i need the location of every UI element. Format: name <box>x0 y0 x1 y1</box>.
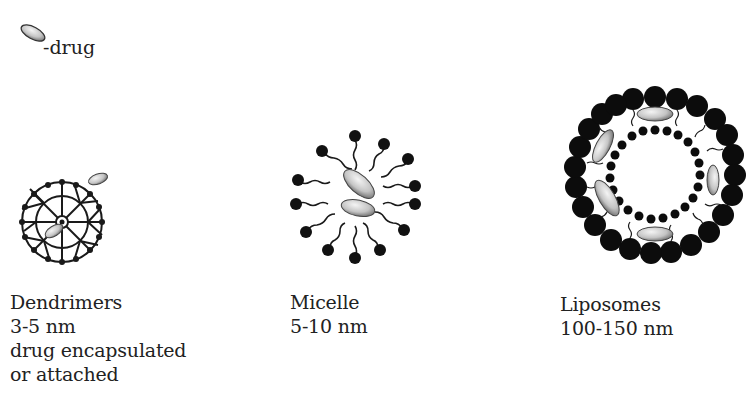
micelle-name: Micelle <box>290 290 368 314</box>
liposome-label: Liposomes 100-150 nm <box>560 292 673 340</box>
dendrimer-note-2: or attached <box>10 362 186 386</box>
legend-label: -drug <box>43 36 95 58</box>
dendrimer-size: 3-5 nm <box>10 314 186 338</box>
dendrimer-name: Dendrimers <box>10 290 186 314</box>
micelle-diagram <box>280 120 430 270</box>
legend: -drug <box>18 22 138 62</box>
liposome-size: 100-150 nm <box>560 316 673 340</box>
micelle-label: Micelle 5-10 nm <box>290 290 368 338</box>
liposome-diagram <box>555 75 755 275</box>
liposome-name: Liposomes <box>560 292 673 316</box>
dendrimer-label: Dendrimers 3-5 nm drug encapsulated or a… <box>10 290 186 386</box>
dendrimer-note-1: drug encapsulated <box>10 338 186 362</box>
dendrimer-diagram <box>10 165 120 275</box>
micelle-size: 5-10 nm <box>290 314 368 338</box>
